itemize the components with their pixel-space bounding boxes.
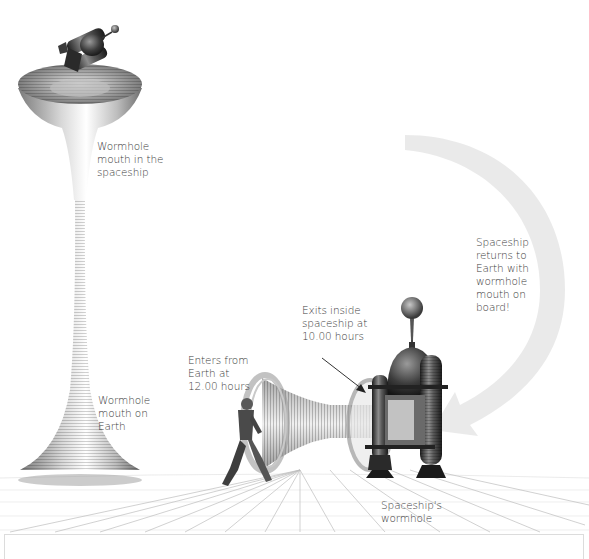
label-mouth-on-earth: Wormhole mouth on Earth xyxy=(98,394,150,433)
exits-pointer-arrow xyxy=(322,358,366,393)
label-spaceship-returns: Spaceship returns to Earth with wormhole… xyxy=(476,236,529,314)
caption-box xyxy=(4,534,584,559)
landed-spaceship xyxy=(365,297,448,478)
horizontal-wormhole xyxy=(243,375,392,471)
small-spaceship xyxy=(58,25,119,72)
label-mouth-in-spaceship: Wormhole mouth in the spaceship xyxy=(97,140,163,179)
label-enters-from-earth: Enters from Earth at 12.00 hours xyxy=(188,354,250,393)
label-spaceships-wormhole: Spaceship's wormhole xyxy=(381,499,442,525)
label-exits-inside-spaceship: Exits inside spaceship at 10.00 hours xyxy=(302,304,367,343)
